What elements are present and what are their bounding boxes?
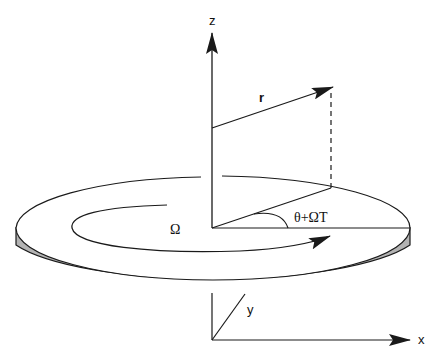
angle-label: θ+ΩT bbox=[294, 210, 328, 225]
omega-label: Ω bbox=[170, 222, 180, 237]
r-vector-label: r bbox=[259, 90, 264, 105]
position-vector-r bbox=[212, 87, 333, 128]
z-axis-label: z bbox=[209, 13, 216, 28]
x-axis-label: x bbox=[418, 332, 425, 347]
rotating-disc-diagram: z r Ω θ+ΩT y x bbox=[0, 0, 437, 360]
y-axis-label: y bbox=[247, 302, 254, 317]
y-axis bbox=[212, 294, 245, 340]
lab-axes bbox=[212, 293, 410, 340]
